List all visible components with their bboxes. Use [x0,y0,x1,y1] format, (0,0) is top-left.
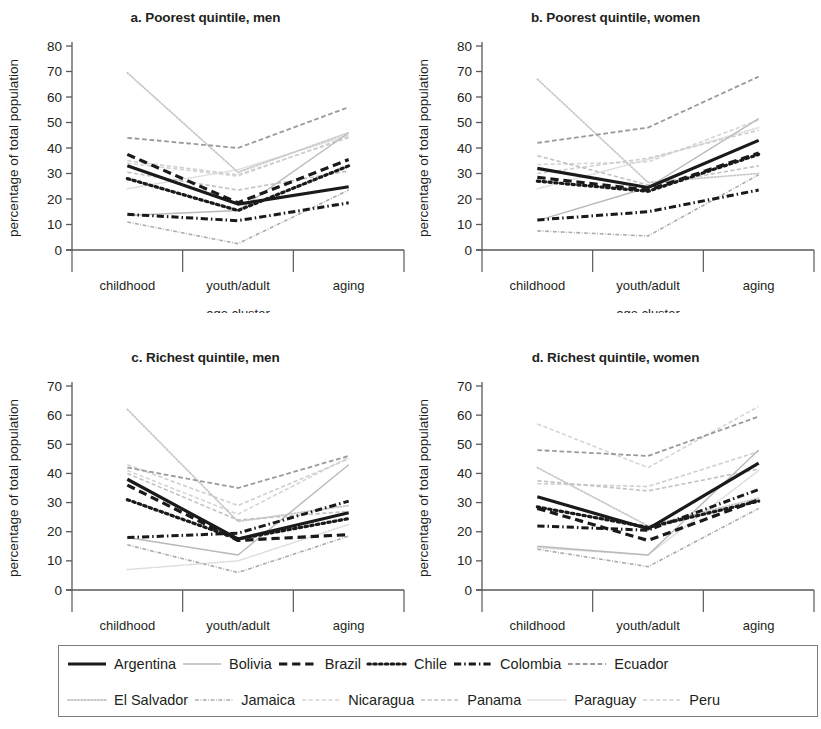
legend-item-paraguay[interactable]: Paraguay [525,692,640,708]
y-axis-tick-label: 20 [457,192,472,207]
x-axis-category-label: youth/adult [206,278,270,293]
y-axis-tick-label: 60 [47,90,62,105]
y-axis-tick-label: 30 [47,166,62,181]
y-axis-title: percentage of total population [416,59,431,237]
panel-d: d. Richest quintile, women 0102030405060… [410,340,821,658]
y-axis-tick-label: 30 [457,495,472,510]
x-axis-category-label: aging [743,278,775,293]
legend-item-chile[interactable]: Chile [365,656,451,672]
legend-item-ecuador[interactable]: Ecuador [565,656,672,672]
panel-a: a. Poorest quintile, men 010203040506070… [0,0,411,318]
y-axis-tick-label: 0 [464,583,472,598]
y-axis-tick-label: 50 [47,115,62,130]
legend-label: Peru [684,692,724,708]
panel-a-svg: 01020304050607080childhoodyouth/adultagi… [0,28,411,313]
panel-b-title: b. Poorest quintile, women [410,8,821,28]
legend-item-panama[interactable]: Panama [418,692,525,708]
x-axis-title: age cluster [616,306,680,313]
legend-item-el-salvador[interactable]: El Salvador [65,692,192,708]
chart-legend: ArgentinaBoliviaBrazilChileColombiaEcuad… [58,645,818,717]
legend-swatch-chile-icon [365,657,409,671]
legend-swatch-brazil-icon [276,657,320,671]
legend-swatch-panama-icon [418,693,462,707]
x-axis-category-label: childhood [100,618,156,633]
legend-item-brazil[interactable]: Brazil [276,656,365,672]
y-axis-tick-label: 40 [47,466,62,481]
legend-item-colombia[interactable]: Colombia [451,656,565,672]
y-axis-tick-label: 50 [457,437,472,452]
x-axis-category-label: aging [333,278,365,293]
y-axis-tick-label: 10 [47,217,62,232]
y-axis-tick-label: 50 [47,437,62,452]
y-axis-tick-label: 40 [47,141,62,156]
legend-item-bolivia[interactable]: Bolivia [180,656,276,672]
x-axis-category-label: aging [333,618,365,633]
y-axis-tick-label: 70 [47,379,62,394]
series-line-nicaragua [537,406,758,467]
legend-item-jamaica[interactable]: Jamaica [192,692,299,708]
y-axis-tick-label: 70 [457,379,472,394]
legend-label: Argentina [109,656,180,672]
legend-swatch-ecuador-icon [565,657,609,671]
y-axis-tick-label: 70 [47,64,62,79]
y-axis-tick-label: 60 [47,408,62,423]
legend-swatch-el-salvador-icon [65,693,109,707]
legend-label: Panama [462,692,525,708]
series-line-ecuador [127,107,348,148]
panel-b-plot: 01020304050607080childhoodyouth/adultagi… [410,28,821,313]
y-axis-tick-label: 40 [457,141,472,156]
y-axis-tick-label: 0 [54,583,62,598]
x-axis-category-label: childhood [100,278,156,293]
legend-label: Paraguay [569,692,640,708]
panel-d-svg: 010203040506070childhoodyouth/adultaging… [410,368,821,653]
legend-row-1: ArgentinaBoliviaBrazilChileColombiaEcuad… [59,646,817,682]
legend-item-argentina[interactable]: Argentina [65,656,180,672]
legend-label: Jamaica [236,692,299,708]
panel-d-plot: 010203040506070childhoodyouth/adultaging… [410,368,821,653]
panel-a-title: a. Poorest quintile, men [0,8,411,28]
legend-label: Bolivia [224,656,276,672]
panel-c: c. Richest quintile, men 010203040506070… [0,340,411,658]
panel-d-title: d. Richest quintile, women [410,348,821,368]
legend-item-nicaragua[interactable]: Nicaragua [299,692,418,708]
y-axis-tick-label: 10 [457,217,472,232]
y-axis-tick-label: 10 [47,553,62,568]
legend-row-2: El SalvadorJamaicaNicaraguaPanamaParagua… [59,682,817,718]
panel-c-title: c. Richest quintile, men [0,348,411,368]
panel-c-plot: 010203040506070childhoodyouth/adultaging… [0,368,411,653]
figure-four-panel-line-charts: a. Poorest quintile, men 010203040506070… [0,0,821,729]
legend-label: Colombia [495,656,565,672]
series-line-colombia [537,190,758,220]
legend-label: Ecuador [609,656,672,672]
y-axis-tick-label: 30 [47,495,62,510]
panel-a-plot: 01020304050607080childhoodyouth/adultagi… [0,28,411,313]
legend-swatch-bolivia-icon [180,657,224,671]
x-axis-category-label: youth/adult [616,278,680,293]
y-axis-tick-label: 50 [457,115,472,130]
y-axis-tick-label: 60 [457,90,472,105]
y-axis-tick-label: 10 [457,553,472,568]
legend-swatch-argentina-icon [65,657,109,671]
y-axis-tick-label: 80 [47,39,62,54]
series-group [127,73,348,244]
panel-b-svg: 01020304050607080childhoodyouth/adultagi… [410,28,821,313]
y-axis-tick-label: 20 [47,192,62,207]
legend-swatch-paraguay-icon [525,693,569,707]
x-axis-title: age cluster [206,306,270,313]
panel-c-svg: 010203040506070childhoodyouth/adultaging… [0,368,411,653]
series-group [127,409,348,572]
legend-label: Chile [409,656,451,672]
y-axis-tick-label: 60 [457,408,472,423]
legend-swatch-colombia-icon [451,657,495,671]
x-axis-category-label: youth/adult [206,618,270,633]
legend-item-peru[interactable]: Peru [640,692,724,708]
panel-b: b. Poorest quintile, women 0102030405060… [410,0,821,318]
y-axis-tick-label: 0 [54,243,62,258]
legend-label: Nicaragua [343,692,418,708]
y-axis-title: percentage of total population [6,59,21,237]
y-axis-tick-label: 20 [457,524,472,539]
y-axis-title: percentage of total population [6,399,21,577]
y-axis-tick-label: 70 [457,64,472,79]
y-axis-title: percentage of total population [416,399,431,577]
series-group [537,406,758,566]
